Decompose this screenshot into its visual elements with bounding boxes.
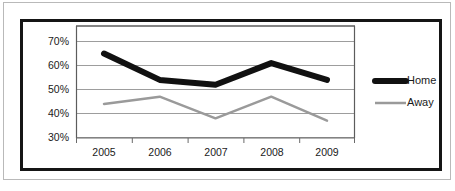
chart-legend: Home Away <box>375 74 436 108</box>
y-axis-labels: 70% 60% 50% 40% 30% <box>48 35 69 143</box>
screenshot-root: 70% 60% 50% 40% 30% <box>0 0 455 191</box>
legend-label-away: Away <box>407 96 434 108</box>
x-tick-label: 2009 <box>315 146 339 158</box>
y-tick-label: 40% <box>48 107 69 119</box>
line-chart: 70% 60% 50% 40% 30% <box>23 22 439 168</box>
y-tick-label: 50% <box>48 83 69 95</box>
y-tick-label: 30% <box>48 131 69 143</box>
x-tick-label: 2007 <box>204 146 228 158</box>
x-axis <box>76 138 355 143</box>
outer-page-border: 70% 60% 50% 40% 30% <box>3 2 451 180</box>
y-tick-label: 70% <box>48 35 69 47</box>
legend-label-home: Home <box>407 74 436 86</box>
chart-canvas: 70% 60% 50% 40% 30% <box>23 22 439 168</box>
x-axis-labels: 2005 2006 2007 2008 2009 <box>92 146 339 158</box>
x-tick-label: 2005 <box>92 146 116 158</box>
x-tick-label: 2006 <box>148 146 172 158</box>
figure-frame: 70% 60% 50% 40% 30% <box>20 19 442 171</box>
series-line-home <box>104 54 327 85</box>
y-tick-label: 60% <box>48 59 69 71</box>
series-line-away <box>104 97 327 121</box>
x-tick-label: 2008 <box>260 146 284 158</box>
